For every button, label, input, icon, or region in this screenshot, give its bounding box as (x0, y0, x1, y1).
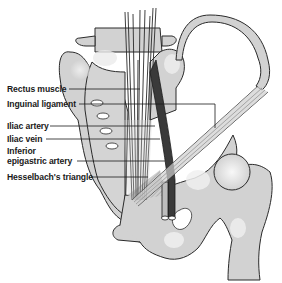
label-iliac-vein: Iliac vein (7, 134, 42, 144)
label-rectus-muscle: Rectus muscle (7, 84, 66, 94)
sacral-body (85, 62, 125, 215)
label-epigastric-artery: epigastric artery (7, 156, 72, 166)
pelvic-anatomy-diagram: Rectus muscle Inguinal ligament Iliac ar… (0, 0, 282, 283)
label-inferior: Inferior (7, 146, 36, 156)
label-inguinal-ligament: Inguinal ligament (7, 99, 76, 109)
label-iliac-artery: Iliac artery (7, 121, 49, 131)
femoral-head (214, 154, 250, 190)
iliac-crest-arch (176, 15, 270, 90)
label-hesselbachs-triangle: Hesselbach's triangle (7, 172, 93, 182)
